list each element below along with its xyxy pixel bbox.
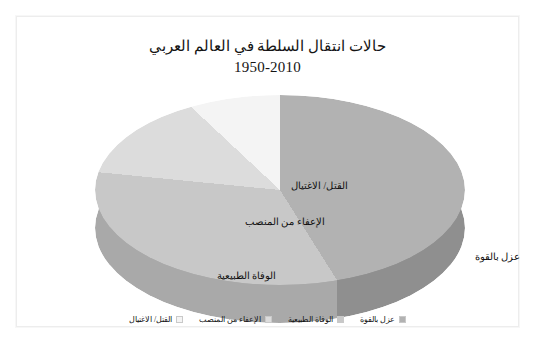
- pie-top-face: [95, 95, 465, 285]
- legend-label-killing-assassination: القتل/ الاغتيال: [129, 315, 172, 324]
- chart-title-line-1: حالات انتقال السلطة في العالم العربي: [17, 37, 518, 57]
- legend-swatch-killing-assassination: [176, 316, 183, 323]
- pie-label-killing-assassination: القتل/ الاغتيال: [291, 181, 348, 192]
- legend-item-natural-death: الوفاة الطبيعية: [288, 315, 344, 324]
- pie-slices: [95, 95, 465, 285]
- pie-label-force-removal: عزل بالقوة: [475, 252, 520, 263]
- legend-label-natural-death: الوفاة الطبيعية: [288, 315, 333, 324]
- legend-label-removal-from-office: الإعفاء من المنصب: [199, 315, 261, 324]
- legend-swatch-natural-death: [337, 316, 344, 323]
- chart-frame: حالات انتقال السلطة في العالم العربي 195…: [16, 16, 519, 327]
- chart-title-line-2: 1950-2010: [17, 57, 518, 77]
- legend-item-force-removal: عزل بالقوة: [360, 315, 406, 324]
- pie-label-natural-death: الوفاة الطبيعية: [217, 271, 276, 282]
- pie-label-removal-from-office: الإعفاء من المنصب: [245, 217, 325, 228]
- pie-chart: القتل/ الاغتيال الإعفاء من المنصب الوفاة…: [95, 95, 495, 300]
- legend-swatch-force-removal: [399, 316, 406, 323]
- chart-title: حالات انتقال السلطة في العالم العربي 195…: [17, 37, 518, 77]
- legend-item-killing-assassination: القتل/ الاغتيال: [129, 315, 183, 324]
- legend-label-force-removal: عزل بالقوة: [360, 315, 395, 324]
- legend-item-removal-from-office: الإعفاء من المنصب: [199, 315, 272, 324]
- chart-legend: القتل/ الاغتيال الإعفاء من المنصب الوفاة…: [17, 315, 518, 324]
- legend-swatch-removal-from-office: [265, 316, 272, 323]
